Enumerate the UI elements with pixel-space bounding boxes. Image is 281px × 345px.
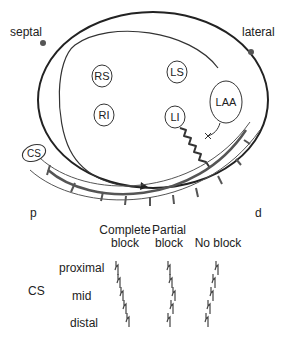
cross-mark-icon (205, 133, 211, 139)
col-header-complete-line2: block (111, 236, 140, 250)
catheter-electrodes (47, 140, 250, 206)
lateral-dot-icon (248, 49, 254, 55)
cs-tube-outer (30, 130, 260, 200)
lateral-label: lateral (242, 25, 275, 39)
ri-label: RI (99, 109, 110, 121)
row-label-proximal: proximal (59, 261, 104, 275)
ls-label: LS (170, 66, 183, 78)
col-header-complete-line1: Complete (99, 223, 151, 237)
laa-label: LAA (216, 96, 237, 108)
distal-end-label: d (255, 206, 262, 220)
row-label-mid: mid (72, 289, 91, 303)
col-header-partial-line1: Partial (152, 223, 186, 237)
egm-column-no-block (205, 261, 218, 327)
rs-label: RS (94, 70, 109, 82)
cs-ostium-label: CS (27, 148, 41, 159)
cs-row-group-label: CS (28, 284, 45, 298)
egm-column-partial-block (167, 261, 175, 327)
col-header-none: No block (195, 236, 243, 250)
col-header-partial-line2: block (155, 236, 184, 250)
septal-label: septal (10, 25, 42, 39)
activation-path-arc (59, 31, 218, 186)
egm-column-complete-block (115, 261, 129, 327)
diagram-canvas: septal lateral RS RI LS LI LAA CS p d Co… (0, 0, 281, 345)
li-label: LI (170, 111, 179, 123)
proximal-end-label: p (30, 206, 37, 220)
septal-dot-icon (40, 40, 46, 46)
row-label-distal: distal (70, 316, 98, 330)
